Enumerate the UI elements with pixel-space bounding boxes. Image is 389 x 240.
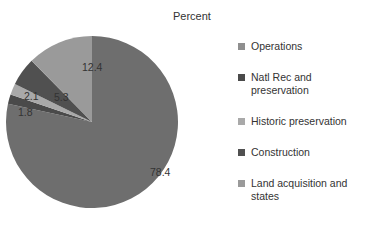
legend-swatch-icon (238, 43, 245, 50)
data-label: 12.4 (82, 61, 103, 73)
legend-label: Natl Rec and preservation (251, 71, 361, 97)
legend-label: Construction (251, 146, 361, 159)
legend-label: Historic preservation (251, 115, 361, 128)
legend-item: Historic preservation (238, 115, 388, 128)
data-label: 1.8 (18, 106, 33, 118)
legend-label: Land acquisition and states (251, 177, 361, 203)
legend-swatch-icon (238, 180, 245, 187)
data-label: 78.4 (150, 166, 171, 178)
legend-swatch-icon (238, 74, 245, 81)
data-label: 2.1 (24, 90, 39, 102)
data-label: 5.3 (54, 91, 69, 103)
legend-swatch-icon (238, 118, 245, 125)
legend-item: Construction (238, 146, 388, 159)
legend-swatch-icon (238, 149, 245, 156)
legend: OperationsNatl Rec and preservationHisto… (238, 40, 388, 203)
legend-item: Natl Rec and preservation (238, 71, 388, 97)
legend-item: Land acquisition and states (238, 177, 388, 203)
legend-label: Operations (251, 40, 361, 53)
legend-item: Operations (238, 40, 388, 53)
